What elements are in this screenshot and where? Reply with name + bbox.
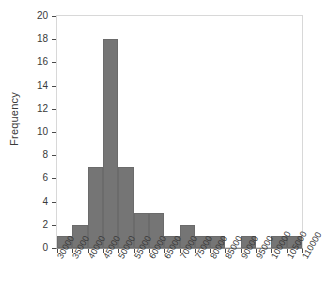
y-axis-tick (52, 155, 56, 156)
y-axis-tick (52, 178, 56, 179)
y-axis-tick (52, 39, 56, 40)
y-axis-tick-label: 12 (22, 104, 48, 114)
y-axis-tick-label: 20 (22, 11, 48, 21)
y-axis-tick (52, 225, 56, 226)
histogram-chart: Frequency 02468101214161820 300003500040… (0, 0, 322, 304)
y-axis-tick-label: 8 (22, 150, 48, 160)
y-axis-tick (52, 132, 56, 133)
y-axis-title: Frequency (8, 74, 20, 164)
bars-layer (57, 16, 302, 248)
y-axis-tick (52, 86, 56, 87)
y-axis-tick (52, 62, 56, 63)
y-axis-tick-label: 14 (22, 81, 48, 91)
y-axis-tick-label: 18 (22, 34, 48, 44)
y-axis-tick (52, 16, 56, 17)
y-axis-tick-label: 4 (22, 197, 48, 207)
y-axis-tick-label: 2 (22, 220, 48, 230)
y-axis-tick-label: 0 (22, 243, 48, 253)
y-axis-tick-label: 16 (22, 57, 48, 67)
y-axis-tick (52, 248, 56, 249)
histogram-bar (103, 39, 118, 248)
y-axis-tick (52, 109, 56, 110)
y-axis-tick (52, 202, 56, 203)
y-axis-tick-label: 10 (22, 127, 48, 137)
y-axis-tick-label: 6 (22, 173, 48, 183)
